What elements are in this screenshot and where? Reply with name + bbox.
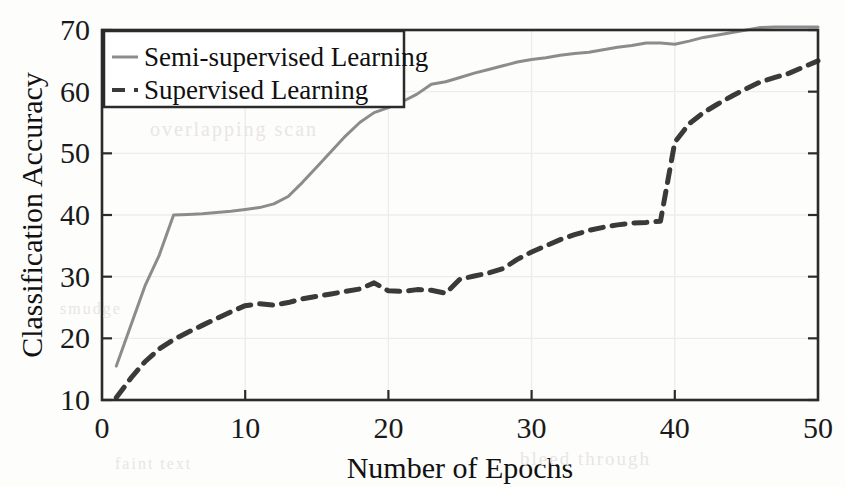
- y-axis-tick-label: 20: [60, 321, 90, 354]
- line-chart: 1020304050607001020304050 Classification…: [0, 0, 845, 487]
- legend-label-semi-supervised: Semi-supervised Learning: [144, 42, 428, 72]
- legend[interactable]: Semi-supervised Learning Supervised Lear…: [104, 31, 428, 107]
- y-axis-tick-label: 70: [60, 13, 90, 46]
- legend-label-supervised: Supervised Learning: [144, 75, 368, 105]
- y-axis-tick-label: 10: [60, 383, 90, 416]
- figure-container: overlapping scan bleed through faint tex…: [0, 0, 845, 487]
- x-axis-tick-label: 50: [803, 411, 833, 444]
- y-axis-tick-label: 60: [60, 75, 90, 108]
- y-axis-title: Classification Accuracy: [15, 72, 48, 358]
- x-axis-tick-label: 10: [230, 411, 260, 444]
- x-axis-title: Number of Epochs: [347, 451, 574, 484]
- series-line-1: [116, 61, 818, 398]
- x-axis-tick-label: 40: [660, 411, 690, 444]
- y-axis-tick-label: 50: [60, 136, 90, 169]
- y-axis-tick-label: 40: [60, 198, 90, 231]
- y-axis-tick-label: 30: [60, 260, 90, 293]
- x-axis-tick-label: 0: [95, 411, 110, 444]
- x-axis-tick-label: 20: [373, 411, 403, 444]
- x-axis-tick-label: 30: [517, 411, 547, 444]
